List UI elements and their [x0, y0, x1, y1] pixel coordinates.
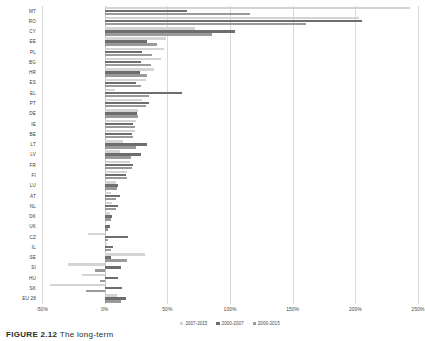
bar	[86, 290, 105, 292]
y-axis-label-sk: SK	[0, 286, 36, 291]
bar	[105, 198, 116, 200]
bar-group	[42, 88, 418, 98]
bar	[105, 105, 146, 107]
bar-group	[42, 160, 418, 170]
x-axis-label--50: -50%	[36, 306, 48, 312]
figure-container: MTROCYEEPLBGHRESELPTDEIEBELTLVFRFILUATNL…	[0, 0, 425, 341]
y-axis-label-dk: DK	[0, 214, 36, 219]
bar	[105, 218, 111, 220]
bar-group	[42, 253, 418, 263]
bar-group	[42, 119, 418, 129]
bar-group	[42, 222, 418, 232]
bar-group	[42, 68, 418, 78]
legend-label: 2007-2015	[185, 321, 207, 326]
bar	[68, 263, 104, 265]
y-axis-label-pl: PL	[0, 50, 36, 55]
bar	[105, 74, 148, 76]
bar	[105, 115, 139, 117]
bar-group	[42, 242, 418, 252]
bar-group	[42, 170, 418, 180]
bar-group	[42, 140, 418, 150]
bar-group	[42, 273, 418, 283]
x-axis-label-0: 0%	[101, 306, 108, 312]
y-axis-label-hu: HU	[0, 276, 36, 281]
figure-caption-label: FIGURE 2.12	[6, 330, 57, 339]
legend-swatch-icon	[253, 322, 256, 325]
y-axis-label-se: SE	[0, 255, 36, 260]
y-axis-label-eu-28: EU 28	[0, 296, 36, 301]
bar	[105, 187, 118, 189]
y-axis-label-ee: EE	[0, 39, 36, 44]
y-axis-label-il: IL	[0, 245, 36, 250]
bar-group	[42, 16, 418, 26]
figure-caption-text: The long-term	[60, 330, 114, 339]
y-axis-label-uk: UK	[0, 224, 36, 229]
plot-area	[42, 6, 418, 304]
bar	[105, 277, 119, 279]
bar	[95, 269, 105, 271]
x-axis-label-250: 250%	[412, 306, 425, 312]
bar	[50, 284, 105, 286]
bar-group	[42, 212, 418, 222]
x-axis-tick-labels: -50%0%50%100%150%200%250%	[42, 306, 418, 316]
bar	[105, 64, 151, 66]
y-axis-label-nl: NL	[0, 204, 36, 209]
bar	[105, 95, 149, 97]
bar-group	[42, 191, 418, 201]
y-axis-label-pt: PT	[0, 101, 36, 106]
bar-group	[42, 57, 418, 67]
bar-group	[42, 201, 418, 211]
bar	[88, 233, 104, 235]
legend-label: 2000-2007	[222, 321, 244, 326]
y-axis-label-hr: HR	[0, 70, 36, 75]
bar	[105, 13, 250, 15]
bar	[82, 274, 105, 276]
bar	[105, 249, 111, 251]
legend-swatch-icon	[216, 322, 219, 325]
bar	[105, 266, 121, 268]
x-axis-label-150: 150%	[286, 306, 299, 312]
bar	[105, 85, 141, 87]
y-axis-label-de: DE	[0, 111, 36, 116]
legend-label: 2000-2015	[258, 321, 280, 326]
bar	[105, 167, 133, 169]
bar	[105, 126, 135, 128]
bar-rows	[42, 6, 418, 304]
y-axis-label-be: BE	[0, 132, 36, 137]
x-axis-label-100: 100%	[224, 306, 237, 312]
bar	[105, 228, 109, 230]
bar-group	[42, 294, 418, 304]
bar	[105, 300, 121, 302]
y-axis-label-fi: FI	[0, 173, 36, 178]
legend-item[interactable]: 2007-2015	[180, 321, 207, 326]
bar	[105, 259, 128, 261]
bar	[105, 208, 116, 210]
bar-group	[42, 181, 418, 191]
bar-group	[42, 6, 418, 16]
legend-swatch-icon	[180, 322, 183, 325]
bar	[105, 136, 134, 138]
bar	[105, 54, 153, 56]
legend-item[interactable]: 2000-2007	[216, 321, 243, 326]
bar-group	[42, 283, 418, 293]
bar	[105, 43, 158, 45]
y-axis-label-at: AT	[0, 194, 36, 199]
bar-group	[42, 98, 418, 108]
bar	[105, 23, 307, 25]
legend-item[interactable]: 2000-2015	[253, 321, 280, 326]
y-axis-label-fr: FR	[0, 163, 36, 168]
chart-legend: 2007-20152000-20072000-2015	[42, 319, 418, 328]
y-axis-label-ie: IE	[0, 122, 36, 127]
bar	[105, 287, 123, 289]
bar-group	[42, 47, 418, 57]
bar	[105, 33, 213, 35]
x-axis-label-50: 50%	[162, 306, 172, 312]
y-axis-label-lu: LU	[0, 183, 36, 188]
bar-group	[42, 232, 418, 242]
x-axis-label-200: 200%	[349, 306, 362, 312]
bar-group	[42, 27, 418, 37]
y-axis-label-cz: CZ	[0, 235, 36, 240]
y-axis-label-es: ES	[0, 80, 36, 85]
bar-group	[42, 129, 418, 139]
bar	[105, 177, 128, 179]
